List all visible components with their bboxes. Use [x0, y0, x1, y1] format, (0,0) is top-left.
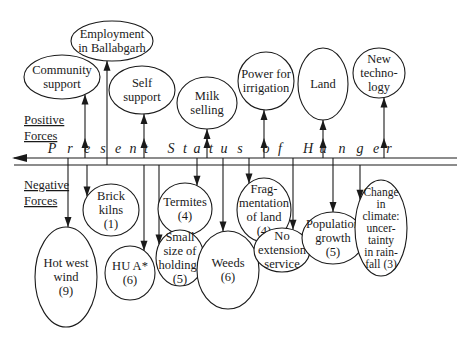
title-letter: s [100, 141, 106, 156]
hot-west-wind-label: (9) [59, 284, 74, 298]
force-termites: Termites(4) [158, 183, 212, 235]
arrow-down-icon [220, 222, 227, 232]
title-letter: r [67, 141, 73, 156]
title-letter: n [339, 141, 346, 156]
arrow-down-icon [290, 220, 297, 230]
new-technology-label: logy [368, 80, 391, 94]
force-power-for-irrigation: Power forirrigation [238, 52, 294, 110]
brick-kilns-label: kilns [99, 203, 123, 217]
population-growth-label: Population [306, 217, 361, 231]
fragmentation-of-land-label: mentation [239, 196, 290, 210]
new-technology-label: New [367, 52, 391, 66]
negative-label-line-2: Forces [24, 194, 57, 208]
title-letter: t [209, 141, 214, 156]
employment-ballabgarh-label: Employment [80, 27, 145, 41]
positive-forces-group: CommunitysupportEmploymentin BallabgarhS… [24, 21, 405, 129]
force-milk-selling: Milkselling [177, 77, 237, 129]
force-no-extension-service: Noextensionservice [254, 228, 310, 272]
force-new-technology: Newtechno-logy [353, 48, 405, 98]
no-extension-service-label: extension [258, 243, 307, 257]
positive-label-line-2: Forces [24, 129, 57, 143]
force-change-in-climate: Changeinclimate:uncer-taintyin rain-fall… [355, 180, 407, 276]
population-growth-label: (5) [326, 245, 341, 259]
small-size-of-holdings-label: size of [164, 244, 198, 258]
small-size-of-holdings-label: holdings [158, 258, 201, 272]
arrow-up-icon [204, 129, 211, 139]
force-weeds: Weeds(6) [197, 231, 259, 309]
fragmentation-of-land-label: of land [246, 210, 282, 224]
change-in-climate-label: fall (3) [365, 258, 397, 271]
positive-forces-label: Positive Forces [24, 113, 65, 143]
hu-a-label: HU A* [112, 259, 148, 273]
title-letter: S [168, 141, 175, 156]
self-support-label: Self [132, 76, 153, 90]
force-brick-kilns: Brickkilns(1) [83, 184, 139, 236]
brick-kilns-label: Brick [97, 189, 126, 203]
change-in-climate-label: uncer- [366, 222, 395, 234]
force-field-diagram: PresentStatusofHunger CommunitysupportEm… [0, 0, 472, 341]
title-letter: e [373, 141, 379, 156]
force-hu-a: HU A*(6) [105, 246, 155, 300]
community-support-label: Community [32, 63, 92, 77]
new-technology-label: techno- [360, 66, 397, 80]
weeds-label: (6) [221, 270, 236, 284]
force-employment-ballabgarh: Employmentin Ballabgarh [71, 21, 153, 61]
negative-forces-group: Brickkilns(1)Hot westwind(9)HU A*(6)Term… [35, 178, 407, 327]
weeds-label: Weeds [211, 256, 244, 270]
small-size-of-holdings-label: Small [165, 230, 195, 244]
arrow-up-icon [261, 110, 268, 120]
hot-west-wind-label: Hot west [44, 256, 89, 270]
land-label: Land [310, 77, 336, 91]
arrow-down-icon [330, 202, 337, 212]
force-hot-west-wind: Hot westwind(9) [35, 227, 97, 327]
title-letter: H [302, 141, 314, 156]
milk-selling-label: selling [190, 103, 224, 117]
title-letter: u [221, 141, 228, 156]
self-support-label: support [123, 90, 161, 104]
positive-label-line-1: Positive [24, 113, 65, 127]
title-letter: e [115, 141, 121, 156]
title-letter: g [357, 141, 364, 156]
title-letter: f [278, 141, 284, 156]
force-self-support: Selfsupport [109, 66, 175, 114]
small-size-of-holdings-label: (5) [173, 272, 188, 286]
arrow-down-icon [65, 217, 72, 227]
arrow-up-icon [320, 120, 327, 130]
power-for-irrigation-label: Power for [241, 67, 291, 81]
left-arrow-icon [12, 154, 27, 162]
no-extension-service-label: service [264, 257, 300, 271]
population-growth-label: growth [315, 231, 351, 245]
force-land: Land [298, 48, 348, 120]
arrow-up-icon [381, 98, 388, 108]
termites-label: (4) [178, 209, 193, 223]
force-community-support: Communitysupport [24, 55, 100, 99]
arrow-up-icon [104, 61, 111, 71]
negative-label-line-1: Negative [24, 178, 70, 192]
arrow-up-icon [141, 114, 148, 124]
fragmentation-of-land-label: Frag- [250, 182, 277, 196]
change-in-climate-label: climate: [362, 210, 399, 222]
employment-ballabgarh-label: in Ballabgarh [78, 41, 146, 55]
band-tick-marks [68, 158, 333, 165]
community-support-label: support [43, 77, 81, 91]
title-letter: s [237, 141, 243, 156]
title-letter: n [130, 141, 137, 156]
force-small-size-of-holdings: Smallsize ofholdings(5) [156, 230, 204, 286]
hu-a-label: (6) [123, 273, 138, 287]
force-population-growth: Populationgrowth(5) [302, 212, 364, 264]
power-for-irrigation-label: irrigation [243, 81, 290, 95]
present-status-of-hunger-title: PresentStatusofHunger [47, 141, 393, 156]
hot-west-wind-label: wind [54, 270, 80, 284]
change-in-climate-label: in rain- [364, 246, 398, 258]
negative-forces-label: Negative Forces [24, 178, 70, 208]
no-extension-service-label: No [274, 229, 289, 243]
termites-label: Termites [163, 195, 207, 209]
change-in-climate-label: in [377, 198, 386, 210]
milk-selling-label: Milk [195, 89, 220, 103]
title-letter: a [194, 141, 201, 156]
brick-kilns-label: (1) [104, 217, 119, 231]
title-letter: P [47, 141, 57, 156]
title-letter: r [386, 141, 392, 156]
title-letter: t [183, 141, 188, 156]
